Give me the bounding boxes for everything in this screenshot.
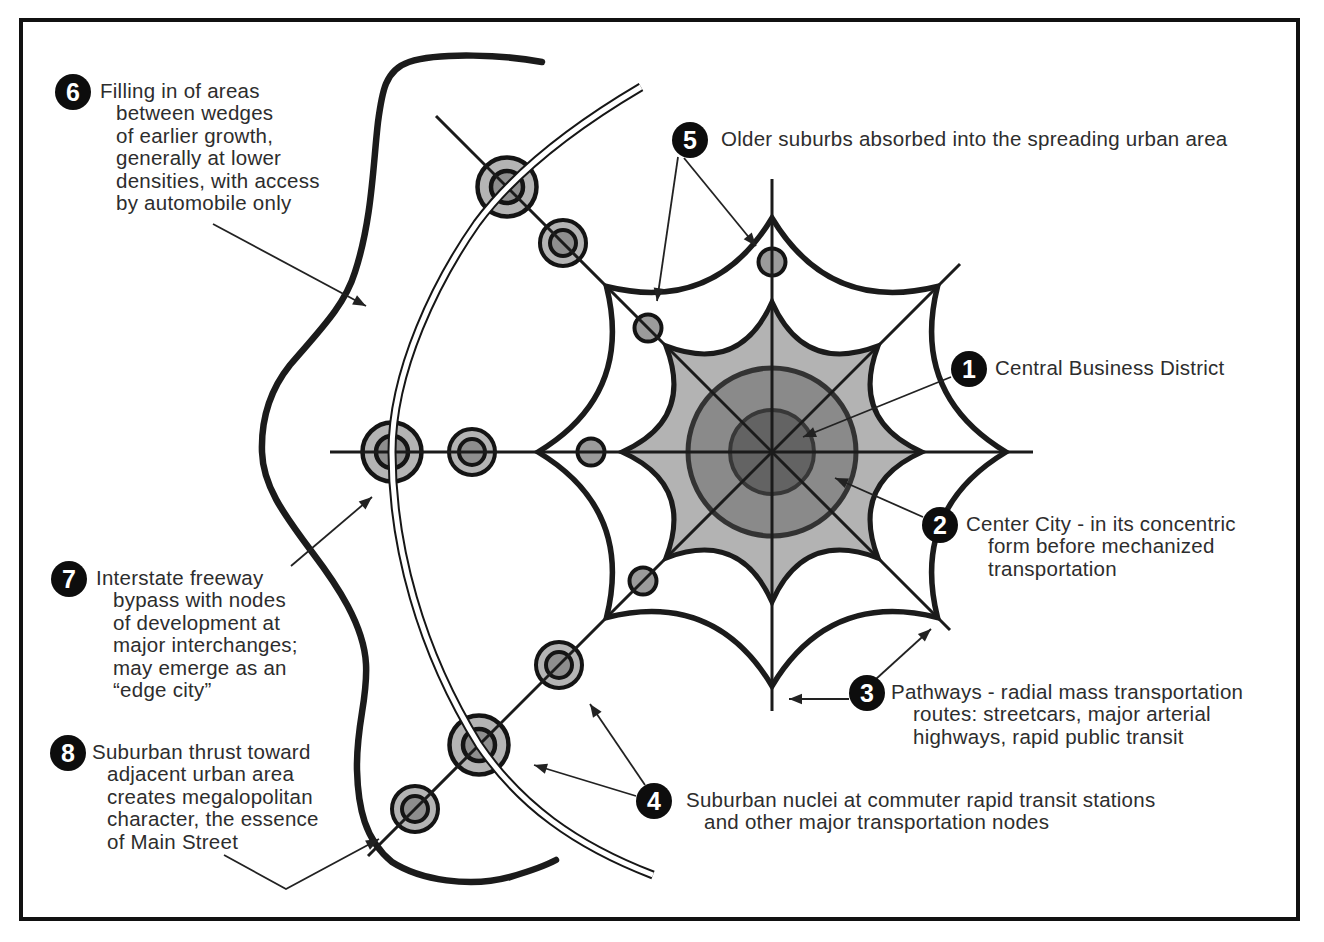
annotation-text-1: Central Business District	[995, 357, 1225, 379]
pointer-line	[213, 224, 366, 306]
annotation-line: bypass with nodes	[113, 589, 298, 611]
annotation-line: of Main Street	[107, 831, 319, 853]
annotation-line: Suburban thrust toward	[92, 741, 319, 763]
arrowhead-icon	[352, 295, 366, 306]
annotation-line: of earlier growth,	[116, 125, 320, 147]
annotation-line: between wedges	[116, 102, 320, 124]
arrowhead-icon	[590, 704, 602, 718]
annotation-line: may emerge as an	[113, 657, 298, 679]
annotation-line: Central Business District	[995, 357, 1225, 379]
arrowhead-icon	[789, 694, 802, 704]
pointer-line	[684, 158, 756, 246]
annotation-text-6: Filling in of areasbetween wedgesof earl…	[100, 80, 320, 214]
pointer-line	[657, 157, 678, 301]
pointer-line	[291, 497, 372, 566]
annotation-badge-6: 6	[55, 74, 91, 110]
annotation-line: densities, with access	[116, 170, 320, 192]
annotation-badge-5: 5	[672, 122, 708, 158]
annotation-line: generally at lower	[116, 147, 320, 169]
annotation-line: form before mechanized	[988, 535, 1236, 557]
annotation-line: of development at	[113, 612, 298, 634]
annotation-text-7: Interstate freewaybypass with nodesof de…	[96, 567, 298, 701]
annotation-text-2: Center City - in its concentricform befo…	[966, 513, 1236, 580]
annotation-line: creates megalopolitan	[107, 786, 319, 808]
annotation-line: highways, rapid public transit	[913, 726, 1243, 748]
annotation-line: character, the essence	[107, 808, 319, 830]
pointer-line	[590, 704, 645, 785]
annotation-badge-8: 8	[50, 735, 86, 771]
annotation-line: routes: streetcars, major arterial	[913, 703, 1243, 725]
annotation-text-8: Suburban thrust towardadjacent urban are…	[92, 741, 319, 853]
annotation-line: Suburban nuclei at commuter rapid transi…	[686, 789, 1155, 811]
annotation-line: by automobile only	[116, 192, 320, 214]
annotation-badge-4: 4	[636, 783, 672, 819]
annotation-line: Pathways - radial mass transportation	[891, 681, 1243, 703]
annotation-badge-2: 2	[922, 507, 958, 543]
annotation-line: “edge city”	[113, 679, 298, 701]
annotation-text-4: Suburban nuclei at commuter rapid transi…	[686, 789, 1155, 834]
annotation-line: transportation	[988, 558, 1236, 580]
annotation-line: Interstate freeway	[96, 567, 298, 589]
pointer-line	[534, 765, 636, 796]
annotation-text-3: Pathways - radial mass transportationrou…	[891, 681, 1243, 748]
arrowhead-icon	[534, 764, 548, 774]
annotation-line: Older suburbs absorbed into the spreadin…	[721, 128, 1227, 150]
annotation-line: Filling in of areas	[100, 80, 320, 102]
annotation-badge-3: 3	[849, 675, 885, 711]
annotation-badge-1: 1	[951, 351, 987, 387]
annotation-line: Center City - in its concentric	[966, 513, 1236, 535]
annotation-line: and other major transportation nodes	[704, 811, 1155, 833]
annotation-line: major interchanges;	[113, 634, 298, 656]
annotation-line: adjacent urban area	[107, 763, 319, 785]
annotation-badge-7: 7	[51, 561, 87, 597]
annotation-text-5: Older suburbs absorbed into the spreadin…	[721, 128, 1227, 150]
